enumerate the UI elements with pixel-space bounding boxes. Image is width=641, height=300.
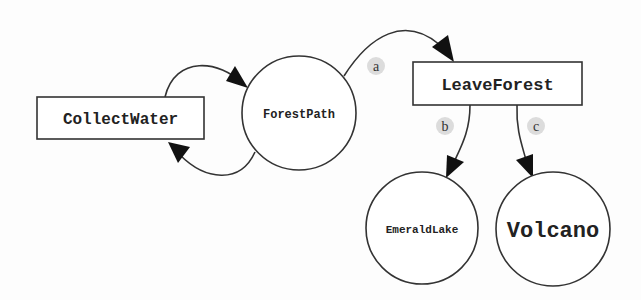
- edge-collectwater-to-forestpath: [165, 66, 248, 97]
- node-volcano[interactable]: Volcano: [496, 172, 610, 286]
- node-label-emeraldlake: EmeraldLake: [386, 224, 459, 236]
- diagram-svg: a b c CollectWater ForestPath LeaveFores…: [0, 0, 641, 300]
- node-label-forestpath: ForestPath: [263, 108, 335, 122]
- state-diagram: a b c CollectWater ForestPath LeaveFores…: [0, 0, 641, 300]
- edge-label-c: c: [533, 119, 539, 134]
- node-forestpath[interactable]: ForestPath: [242, 56, 356, 170]
- node-collectwater[interactable]: CollectWater: [37, 97, 204, 139]
- edge-c-leaveforest-to-volcano: c: [516, 105, 545, 178]
- edge-label-b: b: [442, 119, 449, 134]
- node-leaveforest[interactable]: LeaveForest: [413, 62, 582, 105]
- node-emeraldlake[interactable]: EmeraldLake: [366, 172, 478, 284]
- arrowhead-icon: [432, 35, 454, 62]
- node-label-volcano: Volcano: [507, 219, 599, 244]
- edge-b-leaveforest-to-emeraldlake: b: [436, 105, 470, 178]
- edge-label-a: a: [373, 59, 380, 74]
- arrowhead-icon: [168, 142, 190, 163]
- arrowhead-icon: [516, 154, 533, 178]
- arrowhead-icon: [446, 155, 464, 178]
- arrowhead-icon: [226, 66, 248, 88]
- node-label-collectwater: CollectWater: [63, 111, 178, 129]
- edge-forestpath-to-collectwater: [168, 142, 255, 175]
- node-label-leaveforest: LeaveForest: [441, 76, 553, 95]
